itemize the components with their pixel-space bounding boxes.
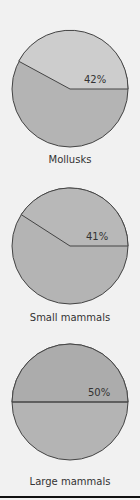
pie-small-mammals-graphic [0,170,140,330]
bottom-divider [0,496,140,498]
pie-large-mammals-percent: 50% [88,387,110,398]
pie-small-mammals-percent: 41% [86,231,108,242]
pie-large-mammals-title: Large mammals [0,476,140,487]
pie-mollusks-graphic [0,0,140,170]
pie-mollusks-percent: 42% [84,74,106,85]
pie-small-mammals-title: Small mammals [0,312,140,323]
pie-chart-mollusks: 42% Mollusks [0,0,140,170]
pie-chart-large-mammals: 50% Large mammals [0,330,140,496]
pie-large-mammals-graphic [0,330,140,496]
pie-chart-small-mammals: 41% Small mammals [0,170,140,330]
pie-mollusks-title: Mollusks [0,154,140,165]
